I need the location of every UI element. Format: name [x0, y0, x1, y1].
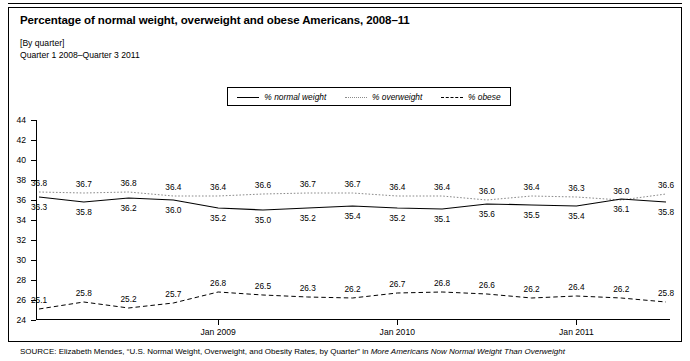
x-axis-tick: [576, 320, 577, 325]
data-point-label: 25.8: [658, 288, 674, 298]
y-axis-label: 26: [16, 295, 26, 305]
source-publication: More Americans Now Normal Weight Than Ov…: [371, 347, 565, 356]
data-point-label: 26.3: [300, 283, 316, 293]
data-point-label: 35.4: [568, 211, 584, 221]
y-axis-tick: [31, 280, 36, 281]
data-point-label: 25.8: [76, 288, 92, 298]
source-text: Elizabeth Mendes, “U.S. Normal Weight, O…: [56, 347, 370, 356]
x-axis-label: Jan 2010: [380, 327, 415, 337]
data-point-label: 36.1: [613, 204, 629, 214]
data-point-label: 36.2: [120, 203, 136, 213]
y-axis-label: 24: [16, 315, 26, 325]
y-axis-tick: [31, 160, 36, 161]
y-axis-label: 44: [16, 115, 26, 125]
data-point-label: 35.8: [658, 207, 674, 217]
y-axis-label: 28: [16, 275, 26, 285]
y-axis-tick: [31, 260, 36, 261]
y-axis-label: 40: [16, 155, 26, 165]
data-point-label: 26.2: [524, 284, 540, 294]
data-point-label: 26.6: [479, 280, 495, 290]
x-axis-tick: [397, 320, 398, 325]
data-point-label: 36.4: [389, 182, 405, 192]
legend-item-dashed: % obese: [441, 92, 501, 102]
top-rule: [8, 3, 682, 4]
data-point-label: 26.8: [210, 278, 226, 288]
y-axis-label: 36: [16, 195, 26, 205]
data-point-label: 36.6: [255, 180, 271, 190]
y-axis-tick: [31, 200, 36, 201]
legend-swatch-icon: [441, 93, 463, 101]
data-point-label: 36.0: [613, 186, 629, 196]
data-point-label: 35.8: [76, 207, 92, 217]
data-point-label: 25.1: [31, 295, 47, 305]
data-point-label: 25.2: [120, 294, 136, 304]
data-point-label: 36.4: [165, 182, 181, 192]
y-axis-tick: [31, 220, 36, 221]
data-point-label: 26.7: [389, 279, 405, 289]
y-axis-tick: [31, 240, 36, 241]
data-point-label: 35.2: [210, 213, 226, 223]
source-note: SOURCE: Elizabeth Mendes, “U.S. Normal W…: [20, 347, 565, 356]
data-point-label: 36.8: [120, 178, 136, 188]
data-point-label: 36.3: [568, 183, 584, 193]
data-point-label: 26.2: [344, 284, 360, 294]
y-axis-label: 42: [16, 135, 26, 145]
chart-subtitle-range: Quarter 1 2008–Quarter 3 2011: [20, 50, 140, 60]
data-point-label: 35.2: [389, 213, 405, 223]
legend-swatch-icon: [345, 93, 367, 101]
data-point-label: 36.8: [31, 178, 47, 188]
data-point-label: 26.2: [613, 284, 629, 294]
data-point-label: 36.7: [300, 179, 316, 189]
data-point-label: 36.4: [434, 182, 450, 192]
y-axis-label: 34: [16, 215, 26, 225]
data-point-label: 35.0: [255, 215, 271, 225]
data-point-label: 35.2: [300, 213, 316, 223]
data-point-label: 35.6: [479, 209, 495, 219]
legend-item-dotted: % overweight: [345, 92, 422, 102]
y-axis-tick: [31, 140, 36, 141]
data-point-label: 36.7: [76, 179, 92, 189]
data-point-label: 26.8: [434, 278, 450, 288]
data-point-label: 25.7: [165, 289, 181, 299]
x-axis-label: Jan 2009: [200, 327, 235, 337]
data-point-label: 35.4: [344, 211, 360, 221]
data-point-label: 36.4: [524, 182, 540, 192]
data-point-label: 36.4: [210, 182, 226, 192]
data-point-label: 26.4: [568, 282, 584, 292]
source-prefix: SOURCE:: [20, 347, 56, 356]
data-point-label: 26.5: [255, 281, 271, 291]
y-axis-label: 32: [16, 235, 26, 245]
chart-title: Percentage of normal weight, overweight …: [20, 14, 410, 26]
data-point-label: 36.6: [658, 180, 674, 190]
chart-legend: % normal weight% overweight% obese: [227, 87, 511, 106]
legend-label: % normal weight: [264, 92, 326, 102]
data-point-label: 36.3: [31, 202, 47, 212]
legend-item-solid: % normal weight: [237, 92, 326, 102]
legend-label: % overweight: [372, 92, 422, 102]
chart-figure: Percentage of normal weight, overweight …: [0, 0, 690, 361]
data-point-label: 35.5: [524, 210, 540, 220]
y-axis-tick: [31, 120, 36, 121]
x-axis-label: Jan 2011: [559, 327, 594, 337]
y-axis-label: 30: [16, 255, 26, 265]
y-axis-tick: [31, 320, 36, 321]
data-point-label: 36.0: [165, 205, 181, 215]
data-point-label: 36.0: [479, 186, 495, 196]
data-point-label: 36.7: [344, 179, 360, 189]
chart-subtitle-units: [By quarter]: [20, 38, 64, 48]
plot-area: 2426283032343638404244Jan 2009Jan 2010Ja…: [36, 120, 670, 320]
data-point-label: 35.1: [434, 214, 450, 224]
x-axis-tick: [218, 320, 219, 325]
y-axis-label: 38: [16, 175, 26, 185]
legend-swatch-icon: [237, 93, 259, 101]
legend-label: % obese: [468, 92, 501, 102]
